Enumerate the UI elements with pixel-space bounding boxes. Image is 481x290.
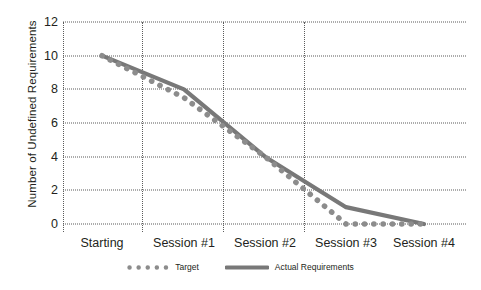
legend-label-actual-requirements: Actual Requirements <box>275 262 354 272</box>
x-tick-label-session-1: Session #1 <box>153 236 215 250</box>
series-target <box>102 56 424 224</box>
series-plot <box>63 22 466 224</box>
dotted-line-marker <box>127 265 169 270</box>
y-tick-label: 0 <box>51 217 58 231</box>
chart-figure: Number of Undefined Requirements 12 10 8… <box>0 0 481 290</box>
solid-line-marker <box>225 265 269 270</box>
x-tick-label-starting: Starting <box>80 236 123 250</box>
y-tick-label: 4 <box>51 150 58 164</box>
y-axis-title: Number of Undefined Requirements <box>26 0 38 234</box>
legend-label-target: Target <box>175 262 199 272</box>
y-tick-label: 12 <box>44 15 58 29</box>
y-tick-label: 2 <box>51 183 58 197</box>
chart-legend: Target Actual Requirements <box>0 262 481 272</box>
y-tick-label: 10 <box>44 49 58 63</box>
legend-entry-target: Target <box>127 262 199 272</box>
y-tick-label: 8 <box>51 82 58 96</box>
y-tick-label: 6 <box>51 116 58 130</box>
x-tick-label-session-3: Session #3 <box>315 236 377 250</box>
legend-entry-actual-requirements: Actual Requirements <box>225 262 354 272</box>
x-tick-label-session-2: Session #2 <box>234 236 296 250</box>
x-tick-label-session-4: Session #4 <box>393 236 455 250</box>
plot-area: 12 10 8 6 4 2 0 <box>63 22 466 224</box>
